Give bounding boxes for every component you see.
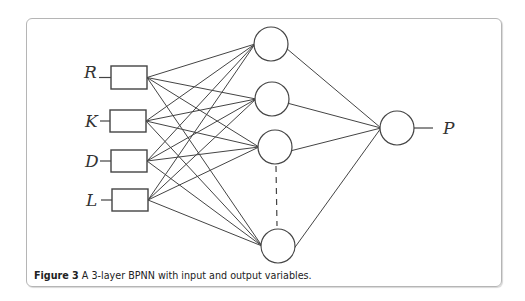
input-node-box — [112, 189, 148, 211]
hidden-node-circle — [261, 229, 295, 263]
figure-caption: Figure 3 A 3-layer BPNN with input and o… — [34, 270, 312, 281]
input-node-box — [111, 66, 147, 89]
bpnn-diagram: RKDL P — [0, 0, 525, 301]
hidden-node-circle — [254, 27, 288, 61]
connection-line — [147, 161, 262, 246]
hidden-node-circle — [258, 130, 292, 164]
caption-label: Figure 3 — [34, 270, 79, 281]
input-hidden-connections — [146, 44, 262, 246]
connection-line — [293, 128, 381, 250]
hidden-layer — [254, 27, 295, 263]
connection-line — [147, 78, 256, 100]
hidden-node-circle — [255, 82, 289, 116]
input-layer: RKDL — [83, 62, 148, 211]
connection-line — [148, 44, 255, 200]
output-node-circle — [380, 111, 414, 145]
connection-line — [147, 78, 262, 247]
hidden-ellipsis-dashed-line — [276, 166, 277, 226]
output-variable-label: P — [442, 118, 455, 138]
input-node-box — [111, 150, 147, 172]
input-variable-label: R — [83, 62, 97, 82]
connection-line — [147, 44, 255, 78]
input-variable-label: L — [85, 190, 97, 210]
caption-text: A 3-layer BPNN with input and output var… — [79, 270, 312, 281]
hidden-output-connections — [286, 48, 381, 250]
input-node-box — [110, 110, 146, 132]
input-variable-label: K — [84, 111, 99, 131]
connection-line — [286, 48, 381, 128]
connection-line — [146, 44, 255, 121]
input-variable-label: D — [84, 151, 99, 171]
connection-line — [146, 121, 262, 246]
output-layer: P — [380, 111, 455, 145]
connection-line — [148, 200, 262, 246]
